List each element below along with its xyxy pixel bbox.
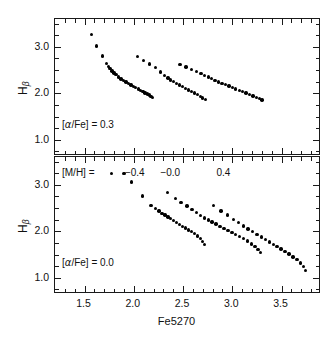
data-point xyxy=(299,261,302,264)
data-point xyxy=(226,213,229,216)
data-point xyxy=(260,235,263,238)
xaxis-title: Fe5270 xyxy=(0,315,333,327)
legend-value-2: 0.4 xyxy=(203,167,243,178)
data-point xyxy=(255,233,258,236)
yaxis-title-bottom-subscript: β xyxy=(21,219,31,224)
data-point xyxy=(232,218,235,221)
data-point xyxy=(219,209,222,212)
data-point xyxy=(199,72,202,75)
annotation-top-suffix: /Fe] = 0.3 xyxy=(71,119,114,130)
data-point xyxy=(195,70,198,73)
data-point xyxy=(304,269,307,272)
data-point xyxy=(272,243,275,246)
yaxis-tick-label: 3.0 xyxy=(15,41,49,52)
data-point xyxy=(242,224,245,227)
annotation-alpha-fe-bottom: [α/Fe] = 0.0 xyxy=(62,257,114,268)
legend-value-0: −0.4 xyxy=(115,167,155,178)
data-point xyxy=(237,221,240,224)
legend-label-mh: [M/H] = xyxy=(62,167,95,178)
xaxis-tick-label: 3.0 xyxy=(211,298,251,309)
data-point xyxy=(291,255,294,258)
data-point xyxy=(264,238,267,241)
data-point xyxy=(251,230,254,233)
data-point xyxy=(178,63,181,66)
xaxis-title-text: Fe5270 xyxy=(158,315,195,327)
data-point xyxy=(283,250,286,253)
annotation-bottom-suffix: /Fe] = 0.0 xyxy=(71,257,114,268)
yaxis-tick-label: 2.0 xyxy=(15,225,49,236)
xaxis-tick-label: 3.5 xyxy=(261,298,301,309)
data-point xyxy=(295,258,298,261)
figure-container: Hβ Hβ [α/Fe] = 0.3 [α/Fe] = 0.0 [M/H] = … xyxy=(0,0,333,339)
data-point xyxy=(246,227,249,230)
data-point xyxy=(279,247,282,250)
legend-value-1: −0.0 xyxy=(150,167,190,178)
yaxis-tick-label: 2.0 xyxy=(15,87,49,98)
data-series-2 xyxy=(55,19,319,154)
yaxis-tick-label: 3.0 xyxy=(15,179,49,190)
yaxis-title-top-subscript: β xyxy=(21,81,31,86)
data-point xyxy=(275,245,278,248)
data-point xyxy=(260,98,263,101)
plot-area-top xyxy=(55,19,319,154)
data-point xyxy=(302,265,305,268)
xaxis-tick-label: 1.5 xyxy=(64,298,104,309)
data-point xyxy=(184,65,187,68)
data-point xyxy=(212,204,215,207)
plot-panel-top xyxy=(54,18,320,155)
annotation-alpha-fe-top: [α/Fe] = 0.3 xyxy=(62,119,114,130)
xaxis-tick-label: 2.0 xyxy=(113,298,153,309)
data-point xyxy=(287,252,290,255)
yaxis-tick-label: 1.0 xyxy=(15,134,49,145)
data-point xyxy=(268,240,271,243)
yaxis-tick-label: 1.0 xyxy=(15,272,49,283)
data-point xyxy=(203,74,206,77)
xaxis-tick-label: 2.5 xyxy=(162,298,202,309)
data-point xyxy=(234,87,237,90)
data-point xyxy=(190,68,193,71)
